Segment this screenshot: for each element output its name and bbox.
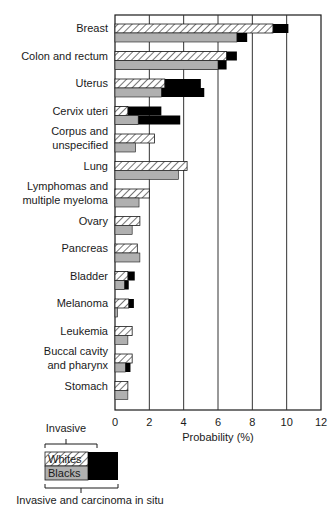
x-tick-label: 10: [281, 416, 293, 428]
blacks-invasive-bar: [115, 308, 118, 317]
whites-invasive-bar: [115, 24, 273, 33]
category-label: Pancreas: [62, 242, 109, 254]
bar-group: [115, 327, 132, 345]
bar-group: [115, 217, 140, 235]
bars: [115, 24, 288, 400]
blacks-invasive-bar: [115, 391, 128, 400]
category-label: Cervix uteri: [52, 105, 108, 117]
blacks-invasive-bar: [115, 226, 132, 235]
category-label: and pharynx: [47, 359, 108, 371]
whites-invasive-bar: [115, 272, 128, 281]
whites-invasive-bar: [115, 382, 128, 391]
legend-in-situ-label: Invasive and carcinoma in situ: [16, 494, 163, 506]
category-label: Buccal cavity: [44, 345, 109, 357]
blacks-invasive-bar: [115, 88, 161, 97]
category-label: Ovary: [79, 215, 109, 227]
whites-invasive-bar: [115, 162, 187, 171]
bar-group: [115, 134, 154, 152]
whites-invasive-bar: [115, 52, 227, 61]
category-label: multiple myeloma: [22, 194, 108, 206]
x-tick-label: 2: [146, 416, 152, 428]
bar-group: [115, 244, 140, 262]
x-tick-label: 6: [215, 416, 221, 428]
category-label: Melanoma: [57, 297, 109, 309]
bar-group: [115, 354, 132, 372]
legend-bottom-bracket: [45, 484, 118, 493]
category-label: unspecified: [52, 139, 108, 151]
legend: Invasive Whites Blacks Invasive and carc…: [16, 422, 163, 506]
blacks-invasive-bar: [115, 171, 179, 180]
bar-group: [115, 272, 135, 290]
category-label: Lung: [84, 160, 108, 172]
category-label: Lymphomas and: [27, 180, 108, 192]
blacks-invasive-bar: [115, 61, 218, 70]
blacks-invasive-bar: [115, 116, 138, 125]
x-axis-label: Probability (%): [182, 431, 254, 443]
category-label: Breast: [76, 22, 108, 34]
whites-invasive-bar: [115, 134, 154, 143]
category-labels: BreastColon and rectumUterusCervix uteri…: [21, 22, 109, 392]
category-label: Corpus and: [51, 125, 108, 137]
blacks-invasive-bar: [115, 33, 237, 42]
bar-group: [115, 162, 187, 180]
category-label: Colon and rectum: [21, 50, 108, 62]
cancer-probability-chart: BreastColon and rectumUterusCervix uteri…: [0, 0, 335, 508]
bar-group: [115, 299, 134, 317]
x-tick-label: 12: [315, 416, 327, 428]
x-tick-labels: 024681012: [112, 416, 327, 428]
legend-invasive-label: Invasive: [46, 422, 86, 434]
bar-group: [115, 189, 149, 207]
category-label: Leukemia: [60, 325, 109, 337]
whites-invasive-bar: [115, 107, 128, 116]
blacks-invasive-bar: [115, 253, 140, 262]
whites-invasive-bar: [115, 79, 165, 88]
whites-invasive-bar: [115, 299, 129, 308]
bar-group: [115, 52, 237, 70]
legend-whites-label: Whites: [48, 453, 82, 465]
x-tick-label: 0: [112, 416, 118, 428]
blacks-invasive-bar: [115, 281, 124, 290]
category-label: Uterus: [76, 77, 109, 89]
blacks-invasive-bar: [115, 143, 136, 152]
grid-lines: [115, 15, 321, 410]
bar-group: [115, 107, 180, 125]
bar-group: [115, 79, 204, 97]
whites-invasive-bar: [115, 244, 137, 253]
blacks-invasive-bar: [115, 336, 128, 345]
blacks-invasive-bar: [115, 198, 139, 207]
whites-invasive-bar: [115, 354, 132, 363]
x-tick-label: 4: [181, 416, 187, 428]
x-tick-label: 8: [249, 416, 255, 428]
legend-blacks-label: Blacks: [48, 467, 81, 479]
bar-group: [115, 24, 288, 42]
legend-top-bracket: [45, 439, 97, 448]
bar-group: [115, 382, 128, 400]
category-label: Stomach: [65, 380, 108, 392]
whites-invasive-bar: [115, 189, 149, 198]
whites-invasive-bar: [115, 217, 140, 226]
blacks-invasive-bar: [115, 363, 125, 372]
category-label: Bladder: [70, 270, 108, 282]
legend-in-situ-swatch: [88, 452, 118, 480]
whites-invasive-bar: [115, 327, 132, 336]
